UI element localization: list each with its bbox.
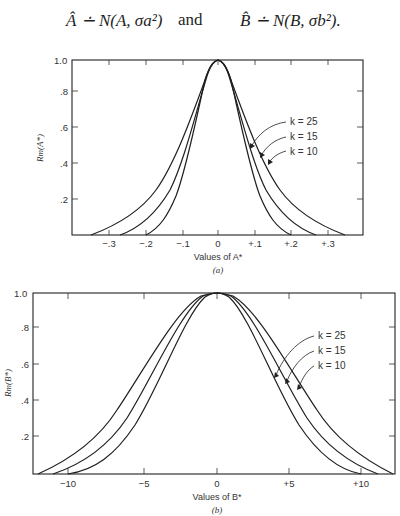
legend-k25-a: k = 25	[290, 116, 318, 127]
arrow-k15-a	[261, 137, 286, 156]
x-tick-label-a: −.1	[176, 238, 189, 249]
legend-k10-a: k = 10	[290, 146, 318, 157]
x-tick-label-b: −10	[60, 478, 76, 489]
y-tick-label-b: .2	[21, 431, 29, 442]
plot-frame-b	[33, 293, 395, 474]
panel-caption-b: (b)	[212, 505, 223, 515]
x-tick-label-a: +.1	[248, 238, 261, 249]
legend-k15-b: k = 15	[318, 345, 346, 356]
y-tick-label-b: .6	[21, 359, 29, 370]
curve-k25-b	[68, 293, 361, 474]
y-tick-label-a: .6	[60, 122, 68, 133]
curve-k15-b	[53, 293, 378, 474]
y-tick-label-b: 1.0	[14, 288, 27, 299]
x-axis-title-a: Values of A*	[194, 252, 243, 262]
x-tick-label-b: +10	[353, 478, 369, 489]
y-tick-label-a: 1.0	[54, 55, 67, 66]
x-tick-label-a: −.2	[139, 238, 152, 249]
chart-panel-b: 1.0 .8 .6 .4 .2 −10 −5 0 +5 +10 Values o…	[3, 288, 395, 515]
chart-panel-a: 1.0 .8 .6 .4 .2 −.3 −.2 −.1 0 +.1 +.2 +.…	[35, 55, 363, 275]
legend-k10-b: k = 10	[318, 360, 346, 371]
curve-k10-b	[38, 293, 393, 474]
y-axis-title-a: Rm(A*)	[35, 134, 45, 163]
x-tick-label-b: −5	[139, 478, 150, 489]
x-axis-title-b: Values of B*	[193, 492, 242, 502]
legend-k15-a: k = 15	[290, 131, 318, 142]
x-tick-label-a: +.3	[321, 238, 334, 249]
figure-canvas: 1.0 .8 .6 .4 .2 −.3 −.2 −.1 0 +.1 +.2 +.…	[0, 0, 400, 516]
x-ticks-b	[68, 293, 361, 474]
x-tick-label-a: −.3	[102, 238, 115, 249]
y-ticks-b	[33, 327, 395, 436]
y-tick-label-a: .8	[60, 86, 68, 97]
y-tick-label-b: .4	[21, 395, 29, 406]
curve-k25-a	[146, 60, 291, 235]
x-tick-label-b: 0	[214, 478, 219, 489]
panel-caption-a: (a)	[213, 265, 224, 275]
y-tick-label-a: .4	[60, 158, 68, 169]
y-ticks-a	[72, 91, 363, 199]
x-tick-label-b: +5	[284, 478, 295, 489]
curves-b	[38, 293, 393, 474]
x-tick-label-a: 0	[215, 238, 220, 249]
curve-k15-a	[120, 60, 316, 235]
arrow-k10-b	[299, 366, 314, 387]
y-axis-title-b: Rm(B*)	[3, 369, 13, 398]
plot-frame-a	[72, 60, 363, 235]
x-tick-label-a: +.2	[284, 238, 297, 249]
arrow-k25-a	[251, 122, 286, 147]
k-annotations-a: k = 25 k = 15 k = 10	[250, 116, 318, 165]
y-tick-label-a: .2	[60, 194, 68, 205]
arrow-k15-b	[287, 351, 314, 381]
legend-k25-b: k = 25	[318, 330, 346, 341]
y-tick-label-b: .8	[21, 322, 29, 333]
